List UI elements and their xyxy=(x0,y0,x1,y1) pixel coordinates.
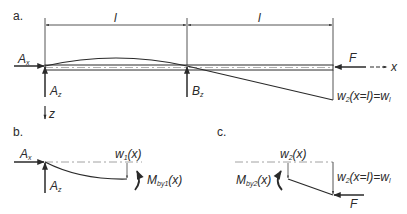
panel-c-label: c. xyxy=(217,125,226,139)
label-Az-b: Az xyxy=(49,179,62,193)
label-Bz: Bz xyxy=(192,84,204,98)
deflection-curve-c xyxy=(288,179,333,195)
moment-arrow-b xyxy=(135,171,139,190)
label-Ax-b: Ax xyxy=(19,147,32,161)
span-label-2: l xyxy=(258,11,261,25)
label-w2: w2(x) xyxy=(280,147,307,161)
label-Az: Az xyxy=(49,84,62,98)
label-Mby2: Mby2(x) xyxy=(236,173,271,188)
deflection-curve-b xyxy=(45,162,127,179)
label-Mby1: Mby1(x) xyxy=(147,173,182,188)
label-Ax: Ax xyxy=(17,52,30,66)
panel-a-label: a. xyxy=(13,9,23,23)
axis-z-label: z xyxy=(48,107,55,121)
label-w1: w1(x) xyxy=(115,147,142,161)
label-tip-deflection-c: w2(x=l)=wl xyxy=(337,170,391,184)
axis-x-label: x xyxy=(390,60,398,74)
span-label-1: l xyxy=(114,11,117,25)
label-tip-deflection-a: w2(x=l)=wl xyxy=(337,89,391,103)
label-F-c: F xyxy=(350,197,358,211)
deflection-curve xyxy=(45,58,333,100)
beam xyxy=(45,65,333,70)
moment-arrow-c xyxy=(278,171,282,190)
label-F: F xyxy=(349,51,357,65)
beam-diagram: a. l l Ax Az Bz F x z w2(x=l)=wl b. Ax A… xyxy=(0,0,407,214)
panel-b-label: b. xyxy=(13,125,23,139)
